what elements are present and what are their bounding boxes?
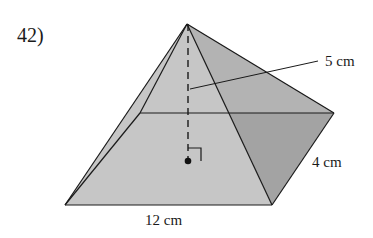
pyramid-diagram: 42) 5 cm 12 cm 4 cm bbox=[0, 0, 373, 238]
base-center-dot bbox=[185, 158, 192, 165]
base-length-label: 12 cm bbox=[145, 212, 182, 228]
height-label: 5 cm bbox=[325, 53, 355, 69]
problem-number: 42) bbox=[17, 24, 44, 47]
base-depth-label: 4 cm bbox=[312, 154, 342, 170]
